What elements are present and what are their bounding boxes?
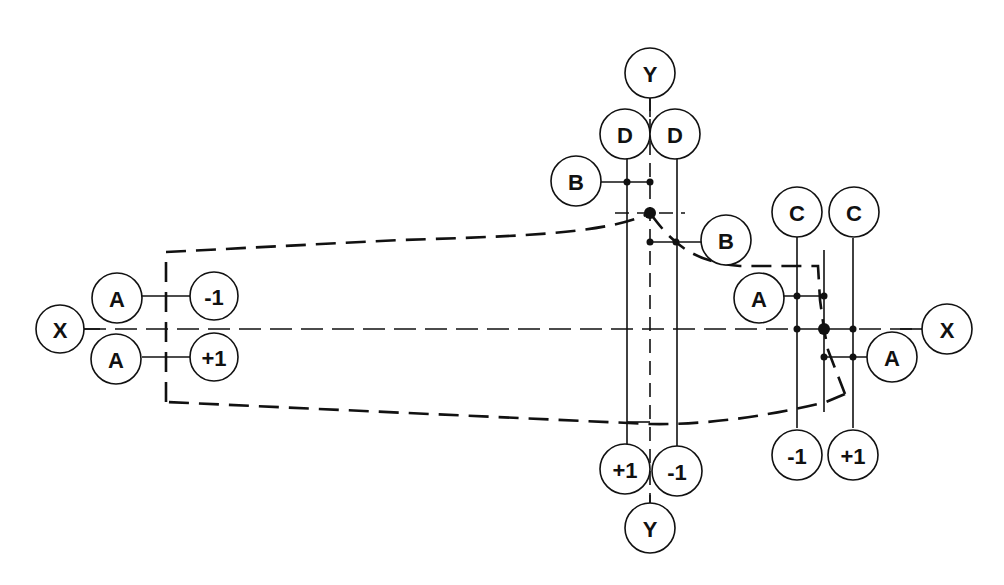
point bbox=[850, 326, 857, 333]
label-a-right-lower: A bbox=[884, 346, 900, 371]
label-y-top: Y bbox=[643, 62, 658, 87]
datum-point-center bbox=[644, 207, 656, 219]
label-minus1-center: -1 bbox=[667, 460, 687, 485]
point bbox=[673, 239, 680, 246]
label-plus1-left: +1 bbox=[201, 346, 226, 371]
label-y-bottom: Y bbox=[643, 517, 658, 542]
datum-point-right bbox=[818, 323, 830, 335]
point bbox=[821, 293, 828, 300]
label-c-left: C bbox=[789, 201, 805, 226]
label-a-right-upper: A bbox=[751, 287, 767, 312]
label-minus1-left: -1 bbox=[204, 285, 224, 310]
label-d-right: D bbox=[667, 123, 683, 148]
datum-diagram: X A A -1 +1 Y D D B B +1 -1 Y C C A A X … bbox=[0, 0, 1004, 585]
label-minus1-right: -1 bbox=[787, 444, 807, 469]
label-x-right: X bbox=[940, 318, 955, 343]
label-plus1-right: +1 bbox=[840, 444, 865, 469]
point bbox=[647, 179, 654, 186]
label-a-left-upper: A bbox=[109, 287, 125, 312]
label-a-left-lower: A bbox=[108, 348, 124, 373]
point bbox=[794, 293, 801, 300]
label-b-upper: B bbox=[568, 170, 584, 195]
point bbox=[821, 354, 828, 361]
label-d-left: D bbox=[617, 123, 633, 148]
label-c-right: C bbox=[846, 201, 862, 226]
point bbox=[794, 326, 801, 333]
point bbox=[647, 239, 654, 246]
point bbox=[624, 179, 631, 186]
label-x-left: X bbox=[53, 318, 68, 343]
diagram-svg: X A A -1 +1 Y D D B B +1 -1 Y C C A A X … bbox=[0, 0, 1004, 585]
label-b-lower: B bbox=[718, 229, 734, 254]
point bbox=[850, 354, 857, 361]
label-plus1-center: +1 bbox=[612, 458, 637, 483]
